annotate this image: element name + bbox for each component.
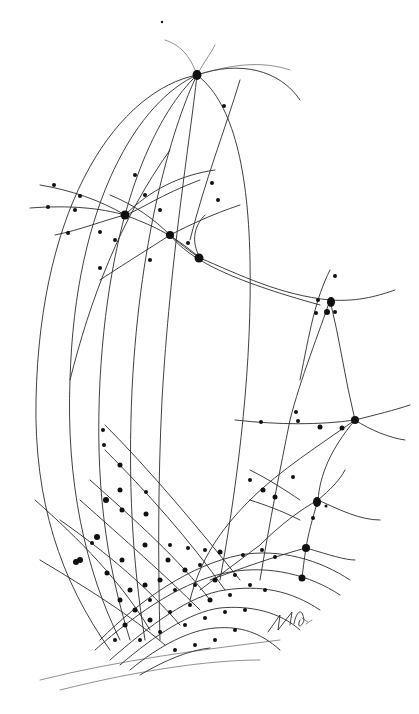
- right-web-curves: [190, 405, 410, 600]
- ink-nodes: [46, 21, 359, 652]
- bottom-fan-curves: [35, 425, 350, 690]
- ink-drawing: [0, 0, 419, 714]
- upper-cluster-curves: [30, 170, 395, 580]
